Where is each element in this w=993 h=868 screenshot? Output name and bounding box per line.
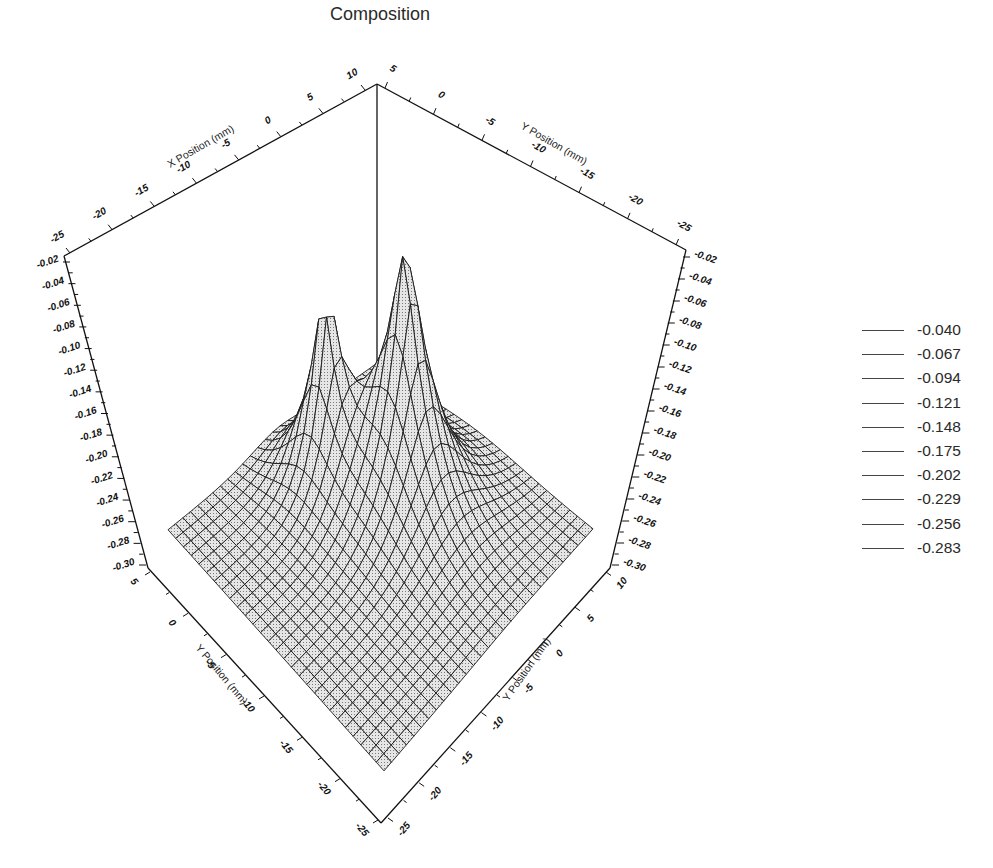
- svg-text:-0.10: -0.10: [673, 336, 698, 354]
- svg-text:10: 10: [614, 575, 630, 591]
- svg-text:-0.04: -0.04: [688, 270, 713, 288]
- svg-text:-25: -25: [395, 819, 413, 837]
- svg-text:-0.16: -0.16: [73, 404, 98, 422]
- svg-text:-15: -15: [457, 749, 475, 767]
- svg-text:-0.14: -0.14: [67, 382, 92, 400]
- svg-text:-0.02: -0.02: [693, 248, 718, 266]
- svg-text:-0.02: -0.02: [35, 253, 60, 271]
- legend-line-icon: [862, 403, 904, 404]
- svg-text:-0.28: -0.28: [105, 534, 130, 552]
- svg-text:-15: -15: [278, 738, 296, 756]
- svg-text:0: 0: [437, 88, 448, 101]
- legend-line-icon: [862, 524, 904, 525]
- svg-text:-0.12: -0.12: [62, 361, 87, 379]
- svg-text:-20: -20: [90, 205, 108, 222]
- svg-text:-20: -20: [426, 784, 444, 802]
- svg-text:5: 5: [128, 576, 140, 588]
- svg-text:-0.20: -0.20: [84, 447, 109, 465]
- svg-text:-0.08: -0.08: [678, 314, 703, 332]
- svg-text:-20: -20: [627, 191, 645, 208]
- svg-text:-0.16: -0.16: [658, 402, 683, 420]
- svg-text:0: 0: [263, 114, 274, 127]
- svg-text:-0.10: -0.10: [57, 339, 82, 357]
- svg-text:-0.18: -0.18: [78, 426, 103, 444]
- svg-text:Y Position (mm): Y Position (mm): [193, 642, 250, 707]
- legend-line-icon: [862, 499, 904, 500]
- svg-text:-0.14: -0.14: [663, 380, 688, 398]
- legend-line-icon: [862, 475, 904, 476]
- svg-text:5: 5: [388, 62, 399, 75]
- svg-text:-25: -25: [48, 228, 66, 245]
- svg-text:-15: -15: [132, 181, 150, 198]
- svg-text:-15: -15: [578, 165, 596, 182]
- svg-text:0: 0: [166, 617, 178, 629]
- svg-text:10: 10: [344, 66, 360, 81]
- svg-text:0: 0: [553, 647, 565, 659]
- legend-line-icon: [862, 427, 904, 428]
- svg-text:-25: -25: [675, 217, 693, 234]
- svg-text:-0.22: -0.22: [642, 468, 667, 486]
- svg-text:-0.30: -0.30: [622, 556, 647, 574]
- svg-text:-0.22: -0.22: [89, 469, 114, 487]
- svg-text:-0.18: -0.18: [652, 424, 677, 442]
- svg-text:5: 5: [305, 90, 316, 103]
- svg-text:-0.04: -0.04: [40, 274, 65, 292]
- svg-text:5: 5: [584, 612, 596, 624]
- svg-text:-0.24: -0.24: [95, 491, 120, 509]
- surface-plot: -25-20-15-10-5051050-5-10-15-20-2550-5-1…: [0, 0, 993, 868]
- legend-line-icon: [862, 548, 904, 549]
- svg-text:-25: -25: [354, 820, 372, 838]
- svg-text:-0.08: -0.08: [51, 318, 76, 336]
- svg-text:-0.28: -0.28: [627, 534, 652, 552]
- svg-text:-0.06: -0.06: [46, 296, 71, 314]
- svg-text:-5: -5: [484, 114, 498, 128]
- svg-text:-0.26: -0.26: [100, 512, 125, 530]
- svg-text:Y Position (mm): Y Position (mm): [519, 119, 590, 167]
- svg-text:-20: -20: [316, 779, 334, 797]
- svg-text:-10: -10: [488, 714, 506, 732]
- svg-text:-0.12: -0.12: [668, 358, 693, 376]
- legend-line-icon: [862, 354, 904, 355]
- legend-line-icon: [862, 378, 904, 379]
- legend-line-icon: [862, 330, 904, 331]
- legend-line-icon: [862, 451, 904, 452]
- svg-text:-0.06: -0.06: [683, 292, 708, 310]
- svg-text:-0.20: -0.20: [647, 446, 672, 464]
- svg-text:-0.26: -0.26: [632, 512, 657, 530]
- svg-text:-0.24: -0.24: [637, 490, 662, 508]
- svg-text:-0.30: -0.30: [111, 556, 136, 574]
